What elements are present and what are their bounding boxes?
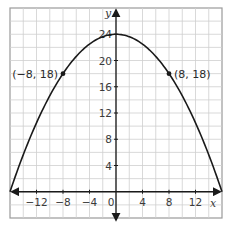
y-tick-label: 20 — [99, 55, 112, 67]
y-axis-label: y — [104, 7, 112, 20]
x-axis-label: x — [210, 197, 217, 210]
x-tick-label: −4 — [82, 196, 98, 208]
point-label: (8, 18) — [174, 68, 211, 81]
x-tick-label: −12 — [25, 196, 47, 208]
x-tick-label: 4 — [139, 196, 146, 208]
point-marker — [167, 71, 172, 76]
point-marker — [61, 71, 66, 76]
parabola-chart: −12−8−4048124812162024 (−8, 18)(8, 18) x… — [0, 0, 231, 226]
y-tick-label: 8 — [105, 133, 112, 145]
y-tick-label: 16 — [99, 81, 113, 93]
x-tick-label: −8 — [55, 196, 70, 208]
x-tick-label: 12 — [189, 196, 202, 208]
point-label: (−8, 18) — [12, 68, 58, 81]
y-tick-label: 4 — [105, 160, 112, 172]
x-tick-label: 0 — [108, 196, 115, 208]
y-tick-label: 12 — [99, 107, 112, 119]
x-tick-label: 8 — [166, 196, 173, 208]
